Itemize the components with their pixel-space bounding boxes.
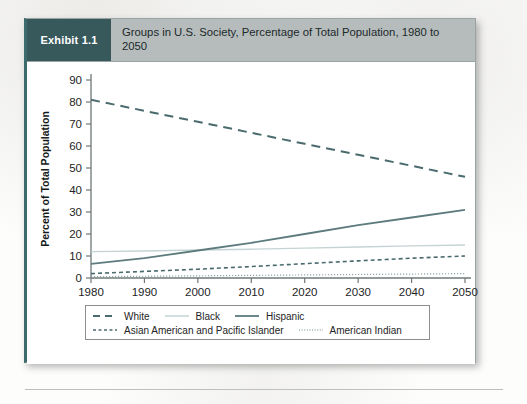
y-axis-tick-label: 90 [69, 74, 82, 86]
exhibit-panel: Exhibit 1.1 Groups in U.S. Society, Perc… [24, 18, 476, 363]
series-line-american-indian [91, 274, 465, 277]
series-line-hispanic [91, 210, 465, 264]
solid-line-swatch [234, 312, 260, 320]
series-line-white [91, 100, 465, 177]
y-axis-tick-label: 40 [69, 184, 82, 196]
legend-label-asian-american: Asian American and Pacific Islander [118, 325, 298, 336]
legend-row-2: Asian American and Pacific Islander Amer… [92, 323, 423, 337]
legend-label-american-indian: American Indian [324, 325, 416, 336]
y-axis-tick-label: 30 [69, 206, 82, 218]
legend-item-american-indian: American Indian [298, 325, 416, 336]
light-solid-line-swatch [164, 312, 190, 320]
x-axis-tick-label: 2040 [399, 286, 425, 298]
chart-legend: White Black Hispanic [85, 305, 430, 340]
short-dash-line-swatch [92, 326, 118, 334]
chart-area: 0102030405060708090Percent of Total Popu… [27, 62, 475, 364]
legend-item-hispanic: Hispanic [234, 311, 318, 322]
dotted-line-swatch [298, 326, 324, 334]
legend-label-white: White [118, 311, 164, 322]
legend-item-asian-american: Asian American and Pacific Islander [92, 325, 298, 336]
y-axis-tick-label: 80 [69, 96, 82, 108]
x-axis-tick-label: 1980 [78, 286, 104, 298]
legend-row-1: White Black Hispanic [92, 309, 423, 323]
y-axis-tick-label: 50 [69, 162, 82, 174]
legend-label-hispanic: Hispanic [260, 311, 318, 322]
legend-item-white: White [92, 311, 164, 322]
exhibit-header: Exhibit 1.1 Groups in U.S. Society, Perc… [27, 19, 475, 62]
y-axis-tick-label: 10 [69, 250, 82, 262]
y-axis-tick-label: 70 [69, 118, 82, 130]
exhibit-title: Groups in U.S. Society, Percentage of To… [111, 19, 475, 61]
page-footer-rule [25, 389, 503, 390]
legend-label-black: Black [190, 311, 234, 322]
x-axis-tick-label: 2020 [292, 286, 318, 298]
y-axis-tick-label: 60 [69, 140, 82, 152]
x-axis-tick-label: 1990 [132, 286, 158, 298]
series-line-black [91, 245, 465, 252]
x-axis-tick-label: 2030 [345, 286, 371, 298]
dashed-line-swatch [92, 312, 118, 320]
x-axis-tick-label: 2050 [452, 286, 478, 298]
y-axis-tick-label: 20 [69, 228, 82, 240]
x-axis-tick-label: 2010 [238, 286, 264, 298]
exhibit-number-badge: Exhibit 1.1 [27, 19, 111, 61]
y-axis-title: Percent of Total Population [39, 111, 51, 247]
x-axis-tick-label: 2000 [185, 286, 211, 298]
legend-item-black: Black [164, 311, 234, 322]
y-axis-tick-label: 0 [76, 272, 82, 284]
